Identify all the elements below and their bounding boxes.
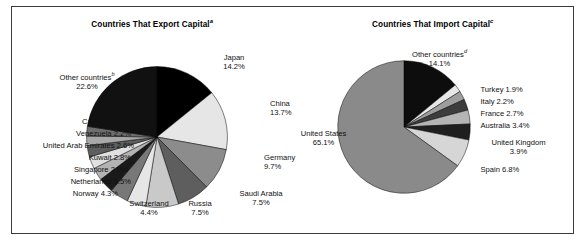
chart-title-import-text: Countries That Import Capital bbox=[372, 20, 490, 29]
figure-frame: Countries That Export Capitala Other cou… bbox=[11, 6, 574, 234]
label-united-kingdom-name: United Kingdom bbox=[491, 138, 545, 147]
label-other-countries-export-superscript: b bbox=[111, 71, 114, 77]
label-united-kingdom: United Kingdom 3.9% bbox=[479, 138, 559, 156]
label-spain: Spain 6.8% bbox=[481, 165, 561, 174]
label-other-countries-import-value: 14.1% bbox=[429, 59, 451, 68]
label-united-states-name: United States bbox=[301, 129, 347, 138]
label-switzerland: Switzerland 4.4% bbox=[120, 199, 178, 217]
label-japan: Japan 14.2% bbox=[208, 53, 260, 71]
label-germany-name: Germany bbox=[264, 153, 295, 162]
label-japan-value: 14.2% bbox=[223, 62, 245, 71]
label-other-countries-import-name: Other countries bbox=[412, 50, 464, 59]
label-united-kingdom-value: 3.9% bbox=[510, 147, 527, 156]
label-venezuela: Venezuela 2.2% bbox=[18, 129, 131, 138]
chart-title-export: Countries That Export Capitala bbox=[12, 18, 293, 29]
chart-title-export-text: Countries That Export Capital bbox=[91, 20, 209, 29]
label-netherlands: Netherlands 3.5% bbox=[18, 177, 131, 186]
label-germany-value: 9.7% bbox=[264, 162, 281, 171]
label-russia: Russia 7.5% bbox=[178, 199, 222, 217]
pie-chart-import bbox=[328, 51, 480, 203]
label-norway: Norway 4.3% bbox=[18, 189, 118, 198]
chart-title-import-superscript: c bbox=[490, 18, 493, 24]
label-australia: Australia 3.4% bbox=[481, 121, 565, 130]
label-other-countries-export-name: Other countries bbox=[59, 73, 111, 82]
label-saudi-arabia-value: 7.5% bbox=[252, 198, 269, 207]
chart-title-export-superscript: a bbox=[210, 18, 213, 24]
label-other-countries-export-value: 22.6% bbox=[76, 82, 98, 91]
label-italy: Italy 2.2% bbox=[481, 97, 561, 106]
label-united-states-value: 65.1% bbox=[313, 138, 335, 147]
label-turkey: Turkey 1.9% bbox=[481, 85, 561, 94]
label-japan-name: Japan bbox=[224, 53, 245, 62]
panel-export-capital: Countries That Export Capitala Other cou… bbox=[12, 7, 293, 233]
label-other-countries-import: Other countriesd 14.1% bbox=[387, 47, 493, 68]
label-canada: Canada 2.2% bbox=[18, 117, 128, 126]
label-united-arab-emirates: United Arab Emirates 2.6% bbox=[12, 141, 134, 150]
label-china-name: China bbox=[270, 99, 290, 108]
label-other-countries-export: Other countriesb 22.6% bbox=[34, 70, 140, 91]
label-russia-value: 7.5% bbox=[191, 208, 208, 217]
label-russia-name: Russia bbox=[188, 199, 211, 208]
chart-title-import: Countries That Import Capitalc bbox=[293, 18, 574, 29]
label-saudi-arabia-name: Saudi Arabia bbox=[239, 189, 282, 198]
label-other-countries-import-superscript: d bbox=[464, 48, 467, 54]
label-saudi-arabia: Saudi Arabia 7.5% bbox=[230, 189, 292, 207]
label-switzerland-value: 4.4% bbox=[140, 208, 157, 217]
panel-import-capital: Countries That Import Capitalc Other cou… bbox=[293, 7, 574, 233]
label-united-states: United States 65.1% bbox=[293, 129, 355, 147]
label-singapore: Singapore 2.9% bbox=[18, 165, 128, 174]
label-switzerland-name: Switzerland bbox=[129, 199, 168, 208]
label-kuwait: Kuwait 2.8% bbox=[18, 153, 131, 162]
label-china-value: 13.7% bbox=[270, 108, 292, 117]
label-france: France 2.7% bbox=[481, 109, 561, 118]
